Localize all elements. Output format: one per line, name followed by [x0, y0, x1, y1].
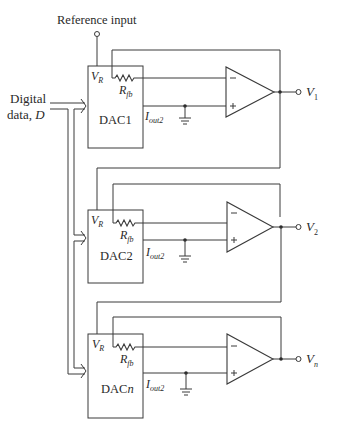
opamp-1-icon	[226, 67, 274, 117]
rfb-label-2: Rfb	[120, 229, 134, 244]
reference-input-label: Reference input	[57, 14, 136, 27]
output-terminal-vn	[296, 357, 301, 362]
cascade-wire-1	[97, 92, 280, 210]
dacn-label: DACn	[101, 383, 134, 396]
iout-label-n: Iout2	[146, 378, 164, 393]
stage-1	[88, 50, 301, 210]
output-label-v2: V2	[306, 220, 318, 237]
vr-label-n: VR	[92, 338, 104, 353]
output-terminal-v2	[296, 225, 301, 230]
reference-input-terminal	[95, 32, 100, 37]
rfb-label-1: Rfb	[119, 84, 133, 99]
ground-icon	[179, 118, 191, 124]
vr-label-1: VR	[91, 70, 103, 85]
feedback-wire-1	[112, 50, 280, 91]
digital-data-bus	[50, 99, 86, 378]
rfb-resistor-icon	[113, 220, 143, 226]
dac2-label: DAC2	[100, 250, 133, 263]
ground-icon	[180, 389, 192, 395]
rfb-resistor-icon	[113, 344, 143, 350]
output-terminal-v1	[296, 90, 301, 95]
digital-data-label-line2: data, D	[7, 108, 45, 121]
ground-icon	[179, 256, 191, 262]
opamp-2-icon	[227, 202, 273, 252]
iout-label-2: Iout2	[146, 246, 164, 261]
opamp-n-icon	[227, 334, 273, 384]
feedback-wire-n	[113, 317, 281, 359]
rfb-resistor-icon	[112, 75, 143, 81]
digital-data-label-line1: Digital	[10, 92, 46, 105]
rfb-label-n: Rfb	[120, 353, 134, 368]
output-label-vn: Vn	[306, 352, 318, 369]
circuit-schematic	[0, 0, 337, 427]
vr-label-2: VR	[91, 214, 103, 229]
iout-label-1: Iout2	[145, 110, 163, 125]
dac1-label: DAC1	[99, 114, 132, 127]
output-label-v1: V1	[306, 85, 318, 102]
